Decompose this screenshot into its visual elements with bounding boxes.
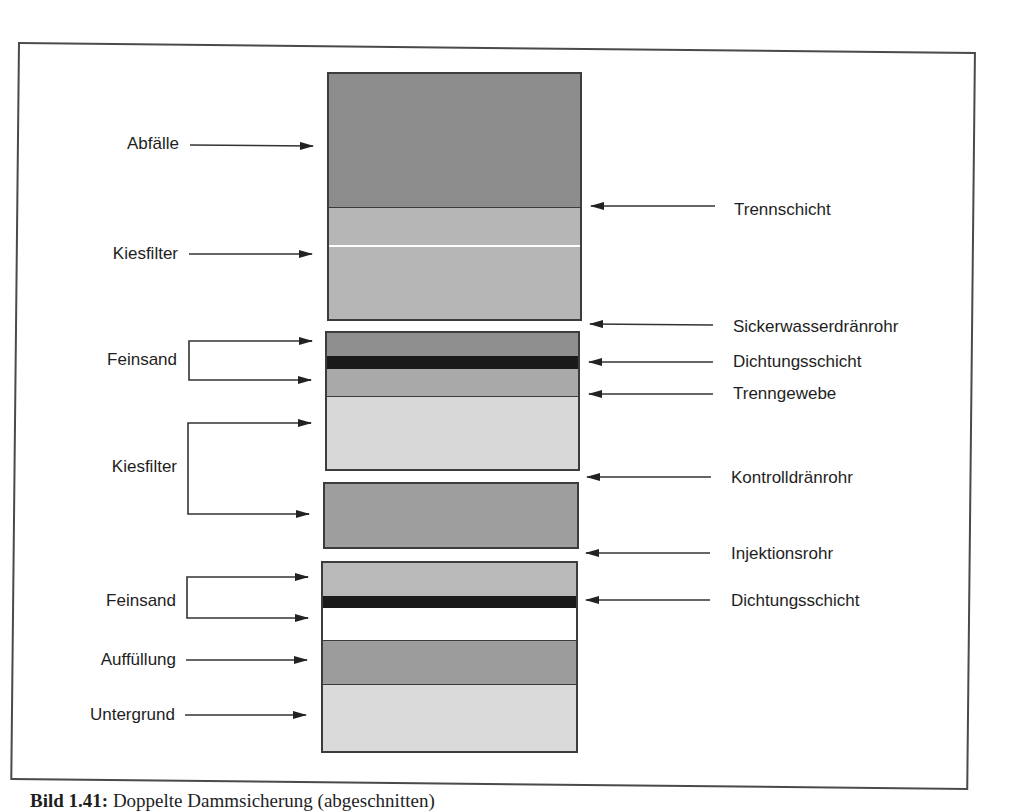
label-sickerwasserdraenrohr: Sickerwasserdränrohr [733, 317, 898, 337]
label-trennschicht: Trennschicht [734, 200, 831, 220]
figure-caption: Bild 1.41: Doppelte Dammsicherung (abges… [30, 790, 435, 812]
label-injektionsrohr: Injektionsrohr [731, 544, 833, 564]
arrow-sickerwasserdraenrohr [590, 324, 713, 325]
label-feinsand-1: Feinsand [107, 350, 177, 370]
label-dichtungsschicht-2: Dichtungsschicht [731, 591, 860, 611]
label-dichtungsschicht-1: Dichtungsschicht [733, 352, 862, 372]
label-trenngewebe: Trenngewebe [733, 384, 836, 404]
label-kiesfilter-1: Kiesfilter [113, 244, 178, 264]
label-abfaelle: Abfälle [127, 134, 179, 154]
label-feinsand-2: Feinsand [106, 591, 176, 611]
arrow-abfaelle [190, 145, 313, 146]
label-kontrolldraenrohr: Kontrolldränrohr [731, 468, 853, 488]
label-auffuellung: Auffüllung [101, 650, 176, 670]
bracket-feinsand-1 [189, 341, 312, 380]
caption-text: Doppelte Dammsicherung (abgeschnitten) [113, 790, 435, 811]
bracket-kiesfilter-2 [188, 423, 311, 514]
bracket-feinsand-2 [187, 577, 308, 618]
label-untergrund: Untergrund [90, 705, 175, 725]
label-kiesfilter-2: Kiesfilter [112, 457, 177, 477]
caption-label: Bild 1.41: [30, 790, 108, 811]
